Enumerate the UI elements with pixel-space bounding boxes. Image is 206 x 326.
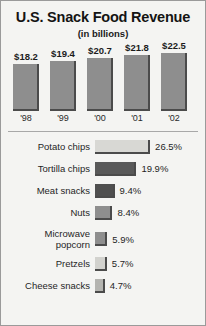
- bar-row: Nuts8.4%: [7, 205, 199, 220]
- bar-row-label: Pretzels: [7, 258, 95, 269]
- bar-row-bar: [95, 232, 107, 246]
- bar-row-bar: [95, 257, 107, 271]
- column-bar-group: $20.7'00: [87, 58, 113, 111]
- bar-row-bar: [95, 206, 112, 220]
- column-bar-group: $22.5'02: [161, 53, 187, 111]
- column-bar: [87, 58, 113, 111]
- column-bar-label: '01: [131, 113, 143, 123]
- bar-row-value: 4.7%: [105, 280, 132, 291]
- column-bar-group: $18.2'98: [13, 64, 39, 111]
- bar-row: Pretzels5.7%: [7, 256, 199, 271]
- column-bar: [161, 53, 187, 111]
- bar-row-value: 26.5%: [150, 141, 182, 152]
- bar-row-bar: [95, 162, 136, 176]
- horizontal-bar-chart: Potato chips26.5%Tortilla chips19.9%Meat…: [7, 139, 199, 293]
- column-bar-group: $21.8'01: [124, 55, 150, 111]
- column-bar-label: '99: [57, 113, 69, 123]
- bar-row-label: Meat snacks: [7, 185, 95, 196]
- bar-row: Cheese snacks4.7%: [7, 278, 199, 293]
- bar-row-label: Nuts: [7, 207, 95, 218]
- column-bar-value: $18.2: [14, 51, 38, 62]
- bar-row: Meat snacks9.4%: [7, 183, 199, 198]
- column-bar-label: '00: [94, 113, 106, 123]
- bar-row-label: Potato chips: [7, 141, 95, 152]
- bar-row-label: Tortilla chips: [7, 163, 95, 174]
- column-bar-value: $22.5: [162, 40, 186, 51]
- bar-row-bar: [95, 140, 150, 154]
- column-bar-value: $21.8: [125, 42, 149, 53]
- bar-row: Potato chips26.5%: [7, 139, 199, 154]
- bar-row-bar: [95, 184, 115, 198]
- column-bar-label: '98: [20, 113, 32, 123]
- snack-food-revenue-infographic: U.S. Snack Food Revenue (in billions) $1…: [0, 0, 206, 326]
- column-bar: [13, 64, 39, 111]
- column-bar-value: $20.7: [88, 45, 112, 56]
- column-chart: $18.2'98$19.4'99$20.7'00$21.8'01$22.5'02: [7, 43, 199, 125]
- column-bar-label: '02: [168, 113, 180, 123]
- bar-row-value: 19.9%: [136, 163, 168, 174]
- bar-row-value: 5.7%: [107, 258, 134, 269]
- bar-row-value: 8.4%: [112, 207, 139, 218]
- bar-row-label: Cheese snacks: [7, 280, 95, 291]
- page-title: U.S. Snack Food Revenue: [1, 10, 205, 25]
- column-bar: [124, 55, 150, 111]
- section-divider: [8, 131, 198, 132]
- column-bar-value: $19.4: [51, 48, 75, 59]
- bar-row: Tortilla chips19.9%: [7, 161, 199, 176]
- bar-row-label: Microwavepopcorn: [7, 228, 95, 250]
- bar-row: Microwavepopcorn5.9%: [7, 227, 199, 251]
- bar-row-value: 5.9%: [107, 234, 134, 245]
- column-bar: [50, 61, 76, 111]
- title-block: U.S. Snack Food Revenue (in billions): [1, 1, 205, 39]
- bar-row-value: 9.4%: [115, 185, 142, 196]
- bar-row-bar: [95, 279, 105, 293]
- column-bar-group: $19.4'99: [50, 61, 76, 111]
- chart-subtitle: (in billions): [1, 28, 205, 39]
